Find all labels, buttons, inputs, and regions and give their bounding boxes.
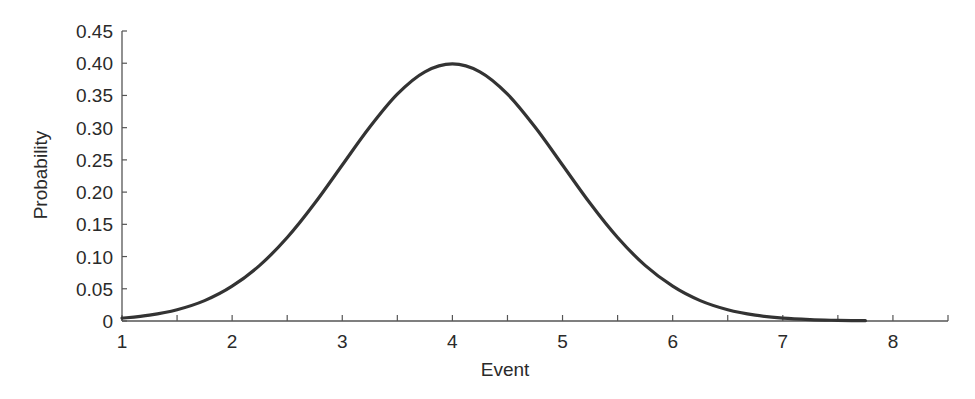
y-tick-label: 0.45 bbox=[76, 21, 113, 42]
x-tick-label: 5 bbox=[557, 331, 568, 352]
y-tick-label: 0.40 bbox=[76, 53, 113, 74]
x-tick-label: 1 bbox=[117, 331, 128, 352]
x-tick-label: 7 bbox=[778, 331, 789, 352]
data-line bbox=[122, 64, 865, 321]
y-tick-label: 0.15 bbox=[76, 214, 113, 235]
y-axis-label: Probability bbox=[30, 130, 51, 219]
y-tick-label: 0.30 bbox=[76, 118, 113, 139]
y-axis: 00.050.100.150.200.250.300.350.400.45 bbox=[76, 21, 127, 332]
x-tick-label: 6 bbox=[667, 331, 678, 352]
chart: 00.050.100.150.200.250.300.350.400.45 12… bbox=[0, 0, 975, 399]
x-tick-label: 3 bbox=[337, 331, 348, 352]
y-tick-label: 0.20 bbox=[76, 182, 113, 203]
x-axis-label: Event bbox=[481, 359, 530, 380]
x-tick-label: 2 bbox=[227, 331, 238, 352]
y-tick-label: 0.10 bbox=[76, 247, 113, 268]
x-tick-label: 4 bbox=[447, 331, 458, 352]
y-tick-label: 0.05 bbox=[76, 279, 113, 300]
y-tick-label: 0.35 bbox=[76, 85, 113, 106]
x-tick-label: 8 bbox=[888, 331, 899, 352]
y-tick-label: 0 bbox=[102, 311, 113, 332]
y-tick-label: 0.25 bbox=[76, 150, 113, 171]
